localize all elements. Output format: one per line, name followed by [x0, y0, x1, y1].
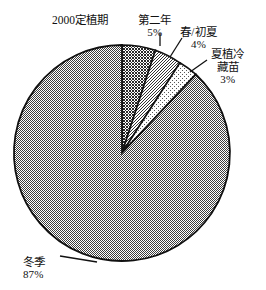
label-summer-cold-stored-percent: 3%	[211, 74, 245, 86]
label-summer-cold-stored: 夏植冷 藏苗 3%	[211, 44, 245, 86]
label-summer-cold-stored-name-line1: 夏植冷	[211, 48, 245, 60]
label-second-year: 第二年 5%	[138, 10, 172, 39]
label-summer-cold-stored-name-line2: 藏苗	[211, 61, 245, 73]
pie-chart-figure: 2000定植期 第二年 5% 春/初夏 4% 夏植冷 藏苗 3% 冬季 87%	[0, 0, 266, 290]
leader-line-summer-cold-stored	[190, 60, 207, 72]
label-spring-early-summer-name: 春/初夏	[180, 26, 217, 38]
label-winter-name: 冬季	[23, 256, 45, 268]
label-winter-percent: 87%	[23, 269, 45, 281]
label-second-year-percent: 5%	[138, 27, 172, 39]
label-winter: 冬季 87%	[23, 252, 45, 281]
chart-title: 2000定植期	[52, 14, 108, 26]
label-second-year-name: 第二年	[138, 14, 172, 26]
pie-slice-winter	[14, 45, 230, 261]
